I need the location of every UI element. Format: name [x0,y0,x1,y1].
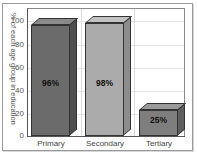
bar-secondary: 98% [85,16,124,136]
bar-side [69,18,77,136]
category-separator [81,9,82,136]
x-axis [27,136,185,137]
bar-tertiary: 25% [139,103,178,136]
value-label: 96% [31,78,70,88]
x-tick-tertiary: Tertiary [132,139,186,148]
y-tick: 0 [6,132,24,140]
x-tick-primary: Primary [24,139,78,148]
bar-primary: 96% [31,18,70,136]
x-tick-secondary: Secondary [78,139,132,148]
y-axis-label: % of each age group in education [8,10,18,128]
bar-side [123,16,131,136]
category-separator [134,9,135,136]
value-label: 98% [85,78,124,88]
value-label: 25% [139,115,178,125]
